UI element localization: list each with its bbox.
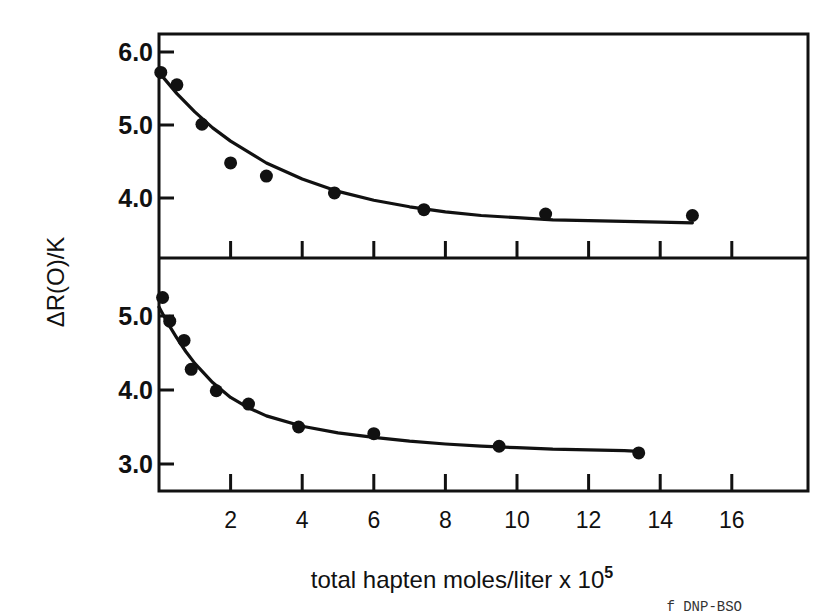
x-tick-label: 8 [439, 507, 452, 533]
x-axis-label-superscript: 5 [604, 564, 613, 581]
data-point [260, 170, 273, 183]
plot-frame [159, 34, 808, 491]
y-axis-label: ΔR(O)/K [42, 237, 69, 328]
data-point [224, 156, 237, 169]
x-tick-label: 12 [576, 507, 602, 533]
data-point [367, 427, 380, 440]
y-tick-label: 6.0 [118, 38, 153, 66]
x-axis-label-text: total hapten moles/liter x 10 [311, 566, 605, 593]
y-tick-label: 5.0 [118, 302, 153, 330]
data-point [178, 334, 191, 347]
x-tick-label: 16 [719, 507, 745, 533]
data-point [242, 398, 255, 411]
data-point [328, 186, 341, 199]
data-point [156, 291, 169, 304]
data-point [195, 118, 208, 131]
data-point [539, 208, 552, 221]
data-point [185, 363, 198, 376]
data-point [170, 78, 183, 91]
x-tick-label: 4 [296, 507, 309, 533]
bottom-panel: 3.04.05.0 [118, 291, 732, 491]
y-tick-label: 5.0 [118, 111, 153, 139]
y-tick-label: 3.0 [118, 450, 153, 478]
data-point [686, 209, 699, 222]
x-axis-label: total hapten moles/liter x 105 [311, 564, 614, 593]
data-point [163, 315, 176, 328]
data-point [493, 440, 506, 453]
caption-fragment: f DNP-BSO [0, 599, 840, 614]
fitted-curve [159, 72, 692, 222]
two-panel-chart: 4.05.06.0 3.04.05.0 246810121416 ΔR(O)/K… [0, 0, 840, 614]
y-tick-label: 4.0 [118, 376, 153, 404]
y-tick-label: 4.0 [118, 184, 153, 212]
top-panel: 4.05.06.0 [118, 38, 732, 258]
fitted-curve [159, 307, 639, 451]
x-axis: 246810121416 [224, 507, 744, 533]
data-point [632, 446, 645, 459]
data-point [154, 66, 167, 79]
x-tick-label: 14 [647, 507, 673, 533]
x-tick-label: 2 [224, 507, 237, 533]
data-point [417, 203, 430, 216]
x-tick-label: 10 [504, 507, 530, 533]
figure: 4.05.06.0 3.04.05.0 246810121416 ΔR(O)/K… [0, 0, 840, 614]
plot-border [159, 34, 808, 491]
data-point [292, 421, 305, 434]
data-point [210, 384, 223, 397]
x-tick-label: 6 [367, 507, 380, 533]
